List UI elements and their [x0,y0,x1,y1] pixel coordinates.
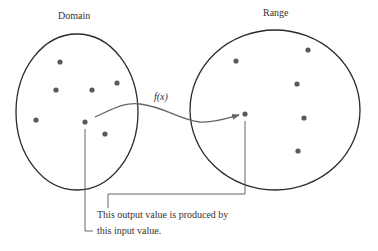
domain-point [89,87,94,92]
function-label: f(x) [154,91,168,102]
range-set-oval [190,30,360,190]
range-point [233,58,238,63]
range-point [301,115,306,120]
domain-set-oval [16,34,138,190]
output-leader-line [108,121,245,208]
domain-point [102,131,107,136]
range-point-output [242,111,247,116]
range-point [305,47,310,52]
domain-point [57,59,62,64]
annotation-input-text: this input value. [97,225,161,236]
annotation-output-text: This output value is produced by [97,209,228,220]
domain-point [114,80,119,85]
range-point [294,81,299,86]
domain-point [53,87,58,92]
range-point [295,148,300,153]
range-label: Range [263,7,289,18]
input-leader-line [85,129,93,231]
domain-points [33,59,119,136]
mapping-arrow [95,104,239,123]
domain-point-input [82,119,87,124]
domain-point [33,117,38,122]
domain-label: Domain [58,10,90,21]
